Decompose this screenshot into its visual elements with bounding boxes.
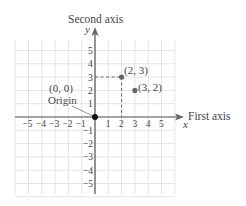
x-axis-var: x [182, 118, 188, 130]
point-3-2 [132, 88, 137, 93]
y-tick-label: −2 [83, 139, 93, 149]
y-tick-label: 2 [88, 86, 93, 96]
x-axis-title: First axis [188, 110, 231, 122]
coordinate-plane-figure: Second axis y First axis x (2, 3) (3, 2)… [0, 0, 246, 206]
x-tick-label: −4 [36, 119, 46, 129]
origin-point [92, 114, 98, 120]
y-tick-label: −4 [83, 166, 93, 176]
y-tick-label: 4 [88, 59, 93, 69]
point-label-2-3: (2, 3) [124, 64, 148, 77]
x-tick-label: 3 [132, 119, 137, 129]
y-tick-label: −3 [83, 152, 93, 162]
point-label-3-2: (3, 2) [138, 81, 162, 94]
y-tick-label: 3 [88, 73, 93, 83]
x-tick-label: 4 [146, 119, 151, 129]
x-tick-label: 2 [119, 119, 124, 129]
y-tick-label: 1 [88, 99, 93, 109]
origin-name-label: Origin [48, 94, 77, 106]
x-tick-label: 5 [159, 119, 164, 129]
x-tick-labels: −5−4−3−2−112345 [23, 119, 165, 129]
y-tick-label: 5 [88, 46, 93, 56]
y-axis-var: y [84, 23, 90, 35]
x-tick-label: 1 [106, 119, 111, 129]
y-tick-label: −1 [83, 126, 93, 136]
x-tick-label: −5 [23, 119, 33, 129]
y-axis-title: Second axis [68, 13, 124, 25]
y-tick-label: −5 [83, 179, 93, 189]
x-tick-label: −3 [49, 119, 59, 129]
x-tick-label: −2 [62, 119, 72, 129]
